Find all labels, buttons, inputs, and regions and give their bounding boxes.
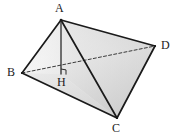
- vertex-label-a: A: [55, 2, 64, 14]
- tetrahedron-drawing: [0, 0, 180, 139]
- vertex-label-b: B: [7, 66, 15, 78]
- vertex-label-h: H: [57, 76, 66, 88]
- vertex-label-d: D: [161, 39, 170, 51]
- vertex-d-dot: [154, 45, 156, 47]
- vertex-c-dot: [116, 117, 118, 119]
- vertex-label-c: C: [112, 122, 120, 134]
- vertex-b-dot: [21, 72, 23, 74]
- vertex-a-dot: [60, 19, 63, 22]
- geometry-figure: A B C D H: [0, 0, 180, 139]
